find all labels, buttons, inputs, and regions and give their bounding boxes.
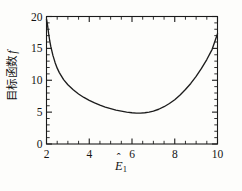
- x-axis-major-ticks: [47, 17, 218, 145]
- y-axis-major-ticks: [47, 17, 218, 145]
- x-axis-minor-ticks: [57, 17, 207, 145]
- data-curve-objective-function: [47, 19, 218, 113]
- chart-figure: 246810 05101520 ˆE1 目标函数f: [0, 0, 242, 191]
- y-tick-label: 20: [31, 11, 43, 23]
- x-tick-label: 4: [86, 148, 92, 160]
- y-axis-minor-ticks: [47, 23, 218, 138]
- y-tick-label: 0: [37, 138, 43, 150]
- x-axis-tick-labels: 246810: [44, 148, 224, 160]
- x-tick-label: 6: [129, 148, 135, 160]
- y-tick-label: 5: [37, 106, 43, 118]
- x-axis-title: ˆE1: [0, 160, 242, 174]
- y-tick-label: 10: [31, 74, 43, 86]
- x-axis-title-symbol: ˆE: [115, 160, 123, 173]
- y-axis-tick-labels: 05101520: [31, 11, 43, 151]
- x-axis-title-hat-accent: ˆ: [117, 153, 121, 165]
- y-tick-label: 15: [31, 42, 43, 54]
- plot-frame: [47, 17, 218, 145]
- x-tick-label: 2: [44, 148, 50, 160]
- x-tick-label: 10: [212, 148, 224, 160]
- x-axis-title-subscript: 1: [123, 164, 127, 174]
- x-tick-label: 8: [172, 148, 178, 160]
